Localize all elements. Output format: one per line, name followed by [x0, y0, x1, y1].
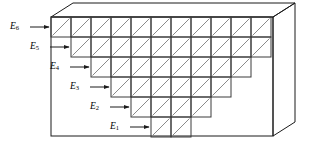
- row-label-e5: E5: [30, 42, 39, 52]
- cell-diagonal-line: [113, 19, 130, 36]
- cell-diagonal-line: [93, 39, 110, 56]
- row-label-e4: E4: [50, 62, 59, 72]
- box-top-face: [51, 3, 295, 17]
- row-label-e1: E1: [110, 122, 119, 132]
- row-label-subscript: 5: [36, 44, 39, 51]
- cell-diagonal-line: [253, 19, 270, 36]
- cell-diagonal-line: [153, 59, 170, 76]
- row-label-subscript: 1: [116, 124, 119, 131]
- cell-diagonal-line: [133, 79, 150, 96]
- row-label-e6: E6: [10, 22, 19, 32]
- row-label-subscript: 3: [76, 84, 79, 91]
- cell-diagonal-line: [213, 39, 230, 56]
- cell-diagonal-line: [153, 19, 170, 36]
- cell-diagonal-line: [233, 19, 250, 36]
- cell-diagonal-line: [173, 59, 190, 76]
- cell-diagonal-line: [173, 19, 190, 36]
- cell-diagonal-line: [173, 79, 190, 96]
- row-label-subscript: 2: [96, 104, 99, 111]
- cell-diagonal-line: [233, 39, 250, 56]
- cell-diagonal-line: [173, 99, 190, 116]
- cell-diagonal-line: [93, 19, 110, 36]
- cell-diagonal-line: [73, 39, 90, 56]
- cell-diagonal-line: [153, 99, 170, 116]
- cell-diagonal-line: [133, 99, 150, 116]
- box-right-face: [273, 3, 295, 136]
- cell-diagonal-line: [253, 39, 270, 56]
- cell-diagonal-line: [133, 59, 150, 76]
- cell-diagonal-line: [193, 59, 210, 76]
- cell-diagonal-line: [213, 79, 230, 96]
- figure-canvas: E6E5E4E3E2E1: [0, 0, 313, 154]
- cell-diagonal-line: [153, 39, 170, 56]
- cell-diagonal-line: [93, 59, 110, 76]
- cell-diagonal-line: [213, 19, 230, 36]
- cell-diagonal-line: [133, 39, 150, 56]
- cell-diagonal-line: [133, 19, 150, 36]
- cell-diagonal-line: [173, 39, 190, 56]
- cell-diagonal-line: [213, 59, 230, 76]
- cell-diagonal-line: [173, 119, 190, 136]
- cell-diagonal-line: [113, 39, 130, 56]
- cell-diagonal-line: [233, 59, 250, 76]
- cell-diagonal-line: [193, 19, 210, 36]
- row-label-e3: E3: [70, 82, 79, 92]
- cell-diagonal-line: [73, 19, 90, 36]
- cell-diagonal-line: [153, 119, 170, 136]
- row-label-e2: E2: [90, 102, 99, 112]
- cell-diagonal-line: [193, 79, 210, 96]
- row-label-subscript: 4: [56, 64, 59, 71]
- cell-diagonal-line: [193, 99, 210, 116]
- cell-diagonal-line: [193, 39, 210, 56]
- cell-diagonal-line: [153, 79, 170, 96]
- cell-diagonal-line: [113, 79, 130, 96]
- staircase-diagram: [0, 0, 313, 154]
- cell-diagonal-line: [53, 19, 70, 36]
- cell-diagonal-line: [113, 59, 130, 76]
- row-label-subscript: 6: [16, 24, 19, 31]
